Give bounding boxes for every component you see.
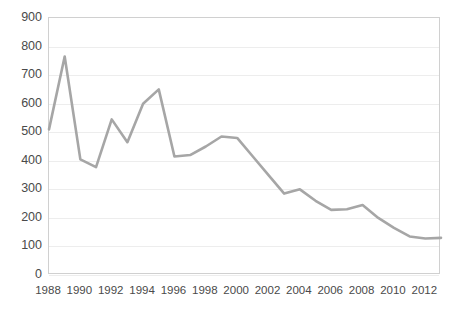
y-tick-label-900: 900 (0, 11, 42, 24)
y-tick-label-400: 400 (0, 154, 42, 167)
x-tick-label-2002: 2002 (255, 285, 281, 297)
x-tick-label-2000: 2000 (223, 285, 249, 297)
x-tick-label-1996: 1996 (161, 285, 187, 297)
y-tick-label-300: 300 (0, 182, 42, 195)
y-tick-label-700: 700 (0, 68, 42, 81)
y-tick-label-800: 800 (0, 40, 42, 53)
x-tick-label-2012: 2012 (412, 285, 438, 297)
gridline-0 (49, 275, 439, 276)
y-tick-label-100: 100 (0, 239, 42, 252)
y-tick-label-200: 200 (0, 211, 42, 224)
y-tick-label-500: 500 (0, 125, 42, 138)
plot-area (48, 17, 440, 274)
y-tick-label-0: 0 (0, 268, 42, 281)
x-tick-label-2006: 2006 (317, 285, 343, 297)
x-tick-label-1990: 1990 (67, 285, 93, 297)
line-chart: 9008007006005004003002001000 19881990199… (0, 0, 456, 310)
y-tick-label-600: 600 (0, 97, 42, 110)
x-tick-label-1992: 1992 (98, 285, 124, 297)
x-tick-label-1998: 1998 (192, 285, 218, 297)
x-tick-label-2004: 2004 (286, 285, 312, 297)
x-tick-label-2008: 2008 (349, 285, 375, 297)
x-tick-label-1994: 1994 (129, 285, 155, 297)
x-tick-label-2010: 2010 (380, 285, 406, 297)
x-tick-label-1988: 1988 (35, 285, 61, 297)
data-series-line (49, 18, 441, 275)
